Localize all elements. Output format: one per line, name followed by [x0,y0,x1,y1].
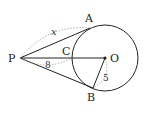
label-b: B [87,91,95,104]
label-o: O [110,52,119,65]
tangent-circle-diagram: P A B C O x 8 5 [0,0,149,116]
label-a: A [84,12,94,25]
measure-ob-5: 5 [103,73,109,83]
label-p: P [8,52,16,65]
measure-pa-x: x [51,26,57,37]
center-point-o [103,56,106,59]
label-c: C [62,45,70,58]
segment-pb [20,58,93,88]
measure-pc-8: 8 [45,60,51,70]
